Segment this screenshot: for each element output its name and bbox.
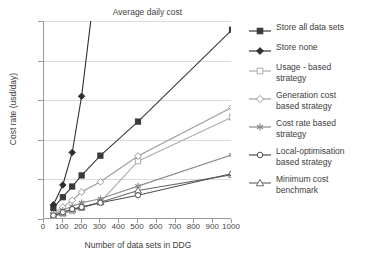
data-point-marker-open-circle <box>70 207 75 212</box>
data-point-marker-open-circle <box>79 205 84 210</box>
x-axis-tick-mark <box>193 219 194 223</box>
data-point-marker-open-circle <box>98 200 103 205</box>
legend-item[interactable]: Cost rate based strategy <box>248 118 385 139</box>
legend-item[interactable]: Store none <box>248 42 385 55</box>
data-point-marker-open-diamond <box>97 178 104 185</box>
data-point-marker-filled-square <box>135 119 140 124</box>
data-point-marker-open-circle <box>229 171 231 176</box>
series-line <box>53 107 231 213</box>
data-point-marker-filled-square <box>79 173 84 178</box>
data-point-marker-open-circle <box>135 193 140 198</box>
x-axis-tick-mark <box>212 219 213 223</box>
x-axis-tick-mark <box>137 219 138 223</box>
x-axis-tick-mark <box>231 219 232 223</box>
legend-swatch-filled-diamond-icon <box>248 43 272 55</box>
data-point-marker-open-circle <box>257 152 263 158</box>
data-point-marker-filled-diamond <box>78 93 84 99</box>
x-axis-tick-mark <box>43 219 44 223</box>
chart-title: Average daily cost <box>55 7 240 17</box>
x-axis-tick-mark <box>62 219 63 223</box>
x-axis-tick-mark <box>81 219 82 223</box>
chart-legend: Store all data setsStore noneUsage - bas… <box>248 22 385 202</box>
legend-swatch-open-triangle-icon <box>248 175 272 187</box>
x-axis-tick-label: 1000 <box>218 223 244 231</box>
x-axis-title: Number of data sets in DDG <box>38 240 238 250</box>
data-point-marker-filled-square <box>60 195 65 200</box>
data-point-marker-open-square <box>257 68 263 74</box>
legend-swatch-open-diamond-icon <box>248 91 272 103</box>
x-axis-tick-mark <box>118 219 119 223</box>
legend-label: Usage - based strategy <box>276 62 331 83</box>
legend-item[interactable]: Minimum cost benchmark <box>248 174 385 195</box>
legend-swatch-asterisk-icon <box>248 119 272 131</box>
data-series-layer <box>44 21 231 219</box>
data-point-marker-filled-square <box>257 28 263 34</box>
data-point-marker-filled-diamond <box>69 149 75 155</box>
y-axis-title: Cost rate (usd/day) <box>8 49 18 169</box>
chart-figure: Average daily cost 05001000150020002500 … <box>0 0 385 268</box>
legend-label: Cost rate based strategy <box>276 118 336 139</box>
legend-label: Minimum cost benchmark <box>276 174 328 195</box>
series-line <box>53 30 231 208</box>
legend-label: Store all data sets <box>276 22 344 33</box>
legend-item[interactable]: Store all data sets <box>248 22 385 35</box>
legend-swatch-filled-square-icon <box>248 23 272 35</box>
chart-plot-region: Average daily cost 05001000150020002500 … <box>0 0 248 268</box>
data-point-marker-open-square <box>229 115 231 120</box>
legend-swatch-open-square-icon <box>248 63 272 75</box>
data-point-marker-filled-square <box>229 27 231 32</box>
x-axis-tick-mark <box>175 219 176 223</box>
data-point-marker-open-circle <box>60 210 65 215</box>
plot-canvas <box>43 21 231 219</box>
x-axis-tick-mark <box>99 219 100 223</box>
data-point-marker-open-diamond <box>229 104 231 111</box>
data-point-marker-filled-diamond <box>257 48 264 55</box>
legend-label: Generation cost based strategy <box>276 90 336 111</box>
legend-item[interactable]: Local-optimisation based strategy <box>248 146 385 167</box>
legend-item[interactable]: Generation cost based strategy <box>248 90 385 111</box>
data-point-marker-filled-square <box>70 184 75 189</box>
legend-swatch-open-circle-icon <box>248 147 272 159</box>
legend-label: Local-optimisation based strategy <box>276 146 345 167</box>
data-point-marker-filled-square <box>98 153 103 158</box>
x-axis-tick-mark <box>156 219 157 223</box>
data-point-marker-open-circle <box>51 213 56 218</box>
legend-item[interactable]: Usage - based strategy <box>248 62 385 83</box>
legend-label: Store none <box>276 42 318 53</box>
data-point-marker-open-diamond <box>256 95 263 102</box>
data-point-marker-filled-diamond <box>60 182 66 188</box>
